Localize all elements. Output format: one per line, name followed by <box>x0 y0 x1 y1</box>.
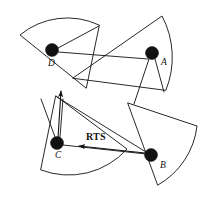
link-d-a <box>58 52 148 59</box>
node-d-dot <box>46 44 59 57</box>
node-d-label: D <box>47 58 55 68</box>
link-b-upper <box>57 97 146 152</box>
sector-b <box>128 103 197 185</box>
node-a-dot <box>146 47 159 60</box>
node-a-label: A <box>160 57 167 67</box>
sector-c <box>41 96 127 175</box>
network-diagram: A B C D RTS <box>0 0 219 198</box>
node-b-dot <box>145 149 158 162</box>
sector-d <box>20 18 99 88</box>
rts-label: RTS <box>86 131 106 142</box>
arrow-rts-b-to-c-icon <box>79 146 145 153</box>
link-c-b-lower <box>63 145 146 154</box>
node-c-dot <box>51 137 64 150</box>
link-a-down-left <box>134 59 149 104</box>
node-b-label: B <box>160 160 166 170</box>
link-c-up-left <box>41 99 55 137</box>
figure-container: A B C D RTS <box>0 0 219 198</box>
link-d-sector-edge <box>58 26 99 48</box>
sectors-group <box>20 16 197 185</box>
node-c-label: C <box>55 150 62 160</box>
